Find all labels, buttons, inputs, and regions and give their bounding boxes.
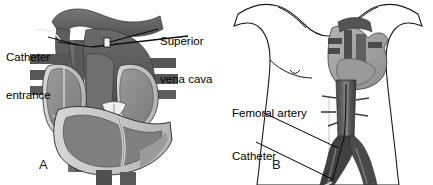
heart-branch-vessel-lower-b <box>328 48 340 54</box>
label-catheter-entrance-a: Catheter entrance <box>6 26 51 126</box>
panel-b: Femoral artery Catheter entrance B <box>216 0 433 185</box>
panel-a: Catheter entrance Superior vena cava A <box>0 0 216 185</box>
heart-branch-vessel-right-b <box>368 42 382 48</box>
panel-b-letter: B <box>272 157 281 172</box>
catheter-hub <box>104 38 110 47</box>
lower-vessel-stub-left <box>96 170 112 185</box>
label-femoral-artery: Femoral artery <box>232 107 307 120</box>
figure-container: Catheter entrance Superior vena cava A <box>0 0 433 185</box>
heart-branch-vessel-upper-b <box>328 38 342 44</box>
label-catheter-entrance-a-line1: Catheter <box>6 51 51 64</box>
panel-a-letter: A <box>39 157 48 172</box>
lower-vessel-stub-right <box>120 172 136 185</box>
label-catheter-entrance-b: Catheter entrance <box>232 125 277 185</box>
label-superior-vena-cava: Superior vena cava <box>160 10 212 110</box>
label-catheter-entrance-a-line2: entrance <box>6 89 51 102</box>
ascending-aorta-b <box>344 30 352 62</box>
label-superior-vena-cava-line1: Superior <box>160 35 212 48</box>
label-superior-vena-cava-line2: vena cava <box>160 73 212 86</box>
label-catheter-entrance-b-line1: Catheter <box>232 150 277 163</box>
